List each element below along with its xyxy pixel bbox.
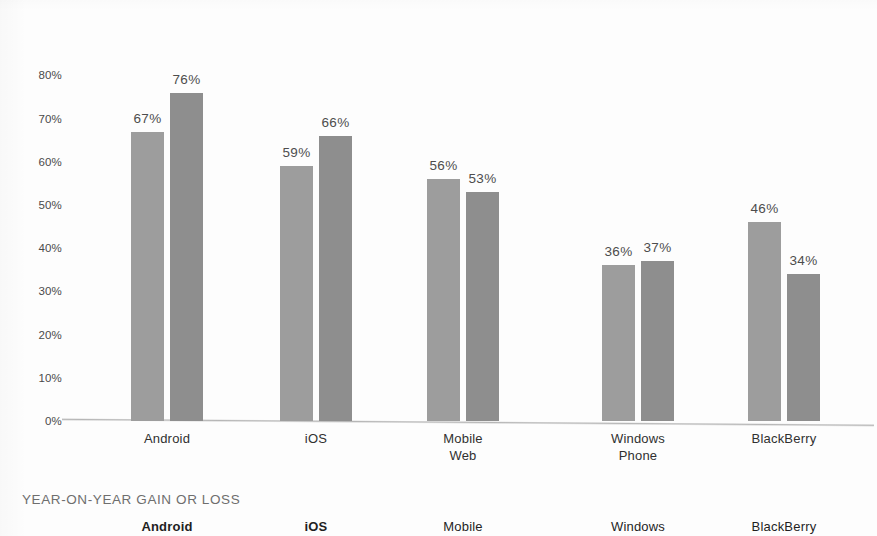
bar-value-label: 66% [322,115,350,130]
bar-group: 36%37% [602,0,674,470]
bar-fill [170,93,203,421]
bar: 34% [787,274,820,421]
bar-value-label: 36% [605,244,633,259]
bar: 66% [319,136,352,421]
band-category-label: Mobile [387,518,539,535]
bar-fill [748,222,781,421]
bar: 56% [427,179,460,421]
plot-area: 67%76%Android59%66%iOS56%53%Mobile Web36… [62,0,874,470]
bar-fill [466,192,499,421]
grouped-bar-chart: 0%10%20%30%40%50%60%70%80% 67%76%Android… [0,0,877,470]
bar-fill [319,136,352,421]
y-axis-tick-label: 60% [6,156,62,168]
y-axis-tick-label: 0% [6,415,62,427]
bar-group: 59%66% [280,0,352,470]
bar-group: 67%76% [131,0,203,470]
x-axis-category-label: Mobile Web [387,430,539,464]
bar: 46% [748,222,781,421]
y-axis-tick-label: 30% [6,285,62,297]
y-axis-tick-label: 50% [6,199,62,211]
bar-group: 46%34% [748,0,820,470]
bar: 36% [602,265,635,421]
bar-value-label: 37% [644,240,672,255]
y-axis-tick-label: 10% [6,372,62,384]
bar-value-label: 59% [283,145,311,160]
lower-band: YEAR-ON-YEAR GAIN OR LOSS AndroidiOSMobi… [0,470,877,536]
y-axis: 0%10%20%30%40%50%60%70%80% [0,0,62,470]
band-category-label: iOS [240,518,392,535]
bar-fill [280,166,313,421]
bar-fill [131,132,164,421]
band-category-label: Android [91,518,243,535]
bar-value-label: 46% [751,201,779,216]
bar: 53% [466,192,499,421]
bar: 59% [280,166,313,421]
bar-fill [787,274,820,421]
bar: 67% [131,132,164,421]
bar-value-label: 76% [173,72,201,87]
bar-group: 56%53% [427,0,499,470]
x-axis-category-label: BlackBerry [708,430,860,447]
bar-fill [427,179,460,421]
bar-value-label: 53% [469,171,497,186]
y-axis-tick-label: 20% [6,329,62,341]
chart-page: 0%10%20%30%40%50%60%70%80% 67%76%Android… [0,0,877,536]
y-axis-tick-label: 80% [6,69,62,81]
bar-fill [641,261,674,421]
band-category-label: BlackBerry [708,518,860,535]
bar: 37% [641,261,674,421]
y-axis-tick-label: 40% [6,242,62,254]
y-axis-tick-label: 70% [6,113,62,125]
x-axis-category-label: iOS [240,430,392,447]
bar-value-label: 34% [790,253,818,268]
bar-fill [602,265,635,421]
x-axis-category-label: Android [91,430,243,447]
band-category-label: Windows [562,518,714,535]
bar: 76% [170,93,203,421]
bar-value-label: 67% [134,111,162,126]
x-axis-category-label: Windows Phone [562,430,714,464]
band-title: YEAR-ON-YEAR GAIN OR LOSS [22,492,240,507]
bar-value-label: 56% [430,158,458,173]
